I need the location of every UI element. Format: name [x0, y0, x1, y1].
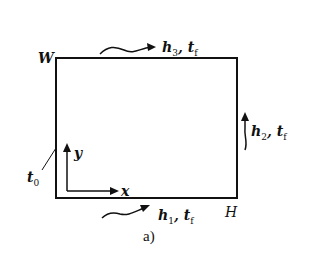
- t0-leader-line: [42, 148, 56, 170]
- top-wavy-arrow: [100, 47, 152, 54]
- x-axis-label: x: [121, 184, 129, 198]
- right-boundary-label: h2, tf: [251, 124, 286, 142]
- figure-caption: a): [143, 229, 155, 244]
- heat-transfer-diagram: W H h3, tf h2, tf h1, tf t0 y x a): [0, 0, 311, 259]
- y-axis-label: y: [74, 146, 82, 160]
- right-wavy-arrow: [245, 118, 246, 150]
- top-arrowhead-icon: [147, 43, 156, 51]
- left-boundary-label: t0: [27, 170, 39, 188]
- right-arrowhead-icon: [241, 112, 249, 121]
- bottom-boundary-label: h1, tf: [158, 208, 193, 226]
- bottom-wavy-arrow: [102, 208, 144, 218]
- domain-rectangle: [56, 58, 237, 198]
- x-axis-arrowhead-icon: [110, 187, 119, 195]
- y-axis-arrowhead-icon: [63, 143, 71, 152]
- bottom-arrowhead-icon: [140, 205, 150, 212]
- top-boundary-label: h3, tf: [162, 40, 197, 58]
- corner-label-w: W: [38, 51, 54, 65]
- corner-label-h: H: [225, 205, 237, 219]
